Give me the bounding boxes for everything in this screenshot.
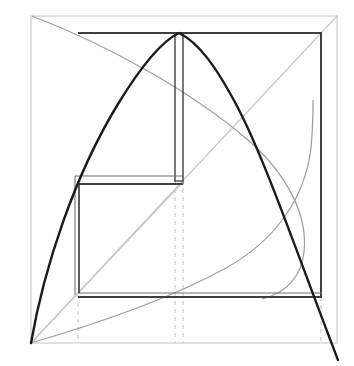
geometry-diagram xyxy=(0,0,354,366)
figure-container xyxy=(0,0,354,366)
